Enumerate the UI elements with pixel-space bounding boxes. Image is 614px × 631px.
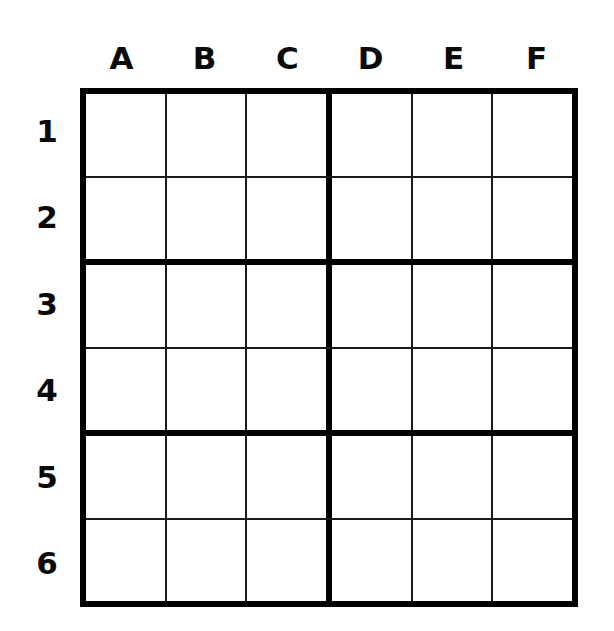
column-header-a: A [80,36,163,80]
cell-c1[interactable] [245,94,326,176]
cell-b3[interactable] [165,265,246,347]
row-header-4: 4 [20,348,74,435]
cell-a3[interactable] [86,265,165,347]
cell-d3[interactable] [326,265,411,347]
cell-c2[interactable] [245,178,326,260]
cell-e5[interactable] [411,436,492,518]
cell-f4[interactable] [491,349,572,431]
grid-row-3 [86,259,572,347]
cell-d2[interactable] [326,178,411,260]
cell-a2[interactable] [86,178,165,260]
row-header-3: 3 [20,261,74,348]
cell-f6[interactable] [491,520,572,602]
cell-b4[interactable] [165,349,246,431]
cell-a4[interactable] [86,349,165,431]
grid-row-6 [86,518,572,602]
cell-b2[interactable] [165,178,246,260]
cell-e6[interactable] [411,520,492,602]
row-header-2: 2 [20,175,74,262]
cell-e1[interactable] [411,94,492,176]
sudoku-puzzle: A B C D E F 1 2 3 4 5 6 [0,0,614,631]
row-header-1: 1 [20,88,74,175]
cell-d5[interactable] [326,436,411,518]
cell-c4[interactable] [245,349,326,431]
cell-e2[interactable] [411,178,492,260]
column-header-c: C [246,36,329,80]
column-header-row: A B C D E F [80,36,578,80]
grid-row-5 [86,430,572,518]
cell-b6[interactable] [165,520,246,602]
grid-row-1 [86,94,572,176]
row-header-6: 6 [20,521,74,608]
cell-e3[interactable] [411,265,492,347]
cell-f3[interactable] [491,265,572,347]
cell-f1[interactable] [491,94,572,176]
cell-f2[interactable] [491,178,572,260]
cell-b1[interactable] [165,94,246,176]
cell-a6[interactable] [86,520,165,602]
column-header-d: D [329,36,412,80]
cell-c6[interactable] [245,520,326,602]
row-header-column: 1 2 3 4 5 6 [20,88,74,607]
cell-a1[interactable] [86,94,165,176]
cell-b5[interactable] [165,436,246,518]
cell-c3[interactable] [245,265,326,347]
cell-d6[interactable] [326,520,411,602]
cell-f5[interactable] [491,436,572,518]
grid-row-4 [86,347,572,431]
column-header-b: B [163,36,246,80]
column-header-f: F [495,36,578,80]
column-header-e: E [412,36,495,80]
row-header-5: 5 [20,434,74,521]
cell-e4[interactable] [411,349,492,431]
cell-a5[interactable] [86,436,165,518]
sudoku-grid [80,88,578,607]
cell-d4[interactable] [326,349,411,431]
grid-row-2 [86,176,572,260]
cell-c5[interactable] [245,436,326,518]
cell-d1[interactable] [326,94,411,176]
